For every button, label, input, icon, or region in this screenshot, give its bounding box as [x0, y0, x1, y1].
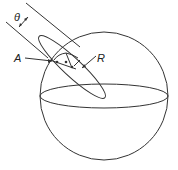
- a-label: A: [13, 52, 21, 64]
- point-dot: [65, 61, 68, 64]
- equator-ellipse: [40, 84, 168, 108]
- point-dot: [56, 61, 59, 64]
- beam-line-lower: [6, 22, 48, 58]
- r-dimension-line: [74, 60, 80, 66]
- point-dot: [71, 66, 74, 69]
- sphere-cross-section-diagram: θ A R: [0, 0, 178, 170]
- a-leader-line: [25, 58, 52, 61]
- theta-label: θ: [14, 11, 20, 23]
- r-label: R: [97, 52, 105, 64]
